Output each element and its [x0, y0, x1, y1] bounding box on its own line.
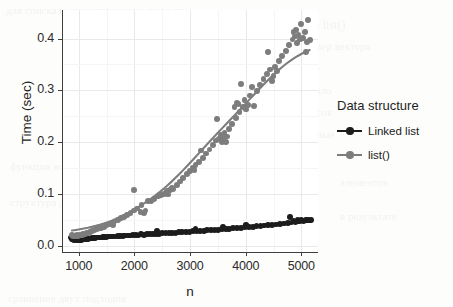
x-tick-label: 3000: [160, 259, 220, 273]
plot-panel: [62, 10, 318, 252]
legend-item-linked-list[interactable]: Linked list: [337, 121, 453, 141]
data-point-list: [226, 126, 232, 132]
data-point-list: [214, 116, 220, 122]
y-tick-mark: [58, 194, 62, 195]
legend-title: Data structure: [337, 98, 453, 113]
y-tick-mark: [58, 246, 62, 247]
legend-key-icon: [337, 148, 362, 162]
x-tick-label: 1000: [49, 259, 109, 273]
legend-key-icon: [337, 124, 362, 138]
data-point-list: [274, 68, 280, 74]
x-axis-label: n: [0, 284, 380, 299]
data-point-list: [257, 82, 263, 88]
legend: Data structure Linked listlist(): [337, 98, 453, 169]
y-tick-mark: [58, 90, 62, 91]
data-point-list: [245, 102, 251, 108]
chart-figure: 10002000300040005000 0.00.10.20.30.4 n T…: [0, 0, 453, 307]
data-point-list: [223, 139, 229, 145]
y-tick-mark: [58, 142, 62, 143]
x-tick-mark: [134, 252, 135, 256]
y-axis-label: Time (sec): [19, 33, 34, 193]
x-tick-mark: [190, 252, 191, 256]
x-tick-mark: [246, 252, 247, 256]
x-tick-label: 2000: [104, 259, 164, 273]
x-tick-mark: [301, 252, 302, 256]
data-point-list: [254, 88, 260, 94]
legend-item-list[interactable]: list(): [337, 145, 453, 165]
legend-items: Linked listlist(): [337, 121, 453, 165]
y-tick-mark: [58, 39, 62, 40]
data-point-list: [305, 17, 311, 23]
legend-item-label: list(): [368, 149, 390, 161]
data-point-linked-list: [308, 217, 314, 223]
x-tick-label: 4000: [216, 259, 276, 273]
data-point-list: [283, 48, 289, 54]
legend-item-label: Linked list: [368, 125, 419, 137]
x-tick-mark: [79, 252, 80, 256]
data-point-list: [264, 71, 270, 77]
data-point-list: [303, 49, 309, 55]
data-point-list: [265, 49, 271, 55]
data-point-list: [307, 37, 313, 43]
y-tick-label: 0.0: [10, 238, 54, 252]
data-point-list: [302, 29, 308, 35]
x-tick-label: 5000: [271, 259, 331, 273]
trend-lines: [62, 10, 318, 252]
y-axis-line: [62, 10, 63, 252]
